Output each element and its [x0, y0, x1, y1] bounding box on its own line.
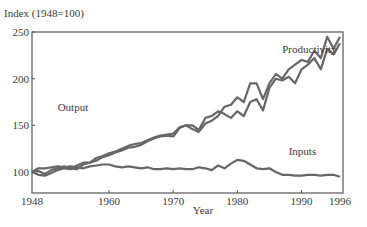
x-axis-label: Year: [193, 204, 214, 216]
y-tick-label: 200: [13, 73, 30, 85]
x-tick-label: 1996: [329, 195, 352, 207]
y-tick-label: 100: [13, 166, 30, 178]
x-tick-label: 1948: [21, 195, 44, 207]
y-tick-label: 150: [13, 119, 30, 131]
x-tick-label: 1970: [162, 195, 185, 207]
series-inputs: [32, 160, 340, 177]
y-tick-label: 250: [13, 26, 30, 38]
x-tick-label: 1990: [291, 195, 314, 207]
y-axis-label: Index (1948=100): [4, 7, 84, 20]
annotations: ProductivityOutputInputs: [58, 43, 337, 158]
line-chart: Index (1948=100) 100150200250 1948196019…: [0, 0, 367, 227]
label-inputs: Inputs: [289, 145, 317, 157]
x-tick-label: 1980: [226, 195, 249, 207]
label-output: Output: [58, 101, 89, 113]
label-productivity: Productivity: [282, 43, 337, 55]
x-tick-label: 1960: [98, 195, 121, 207]
